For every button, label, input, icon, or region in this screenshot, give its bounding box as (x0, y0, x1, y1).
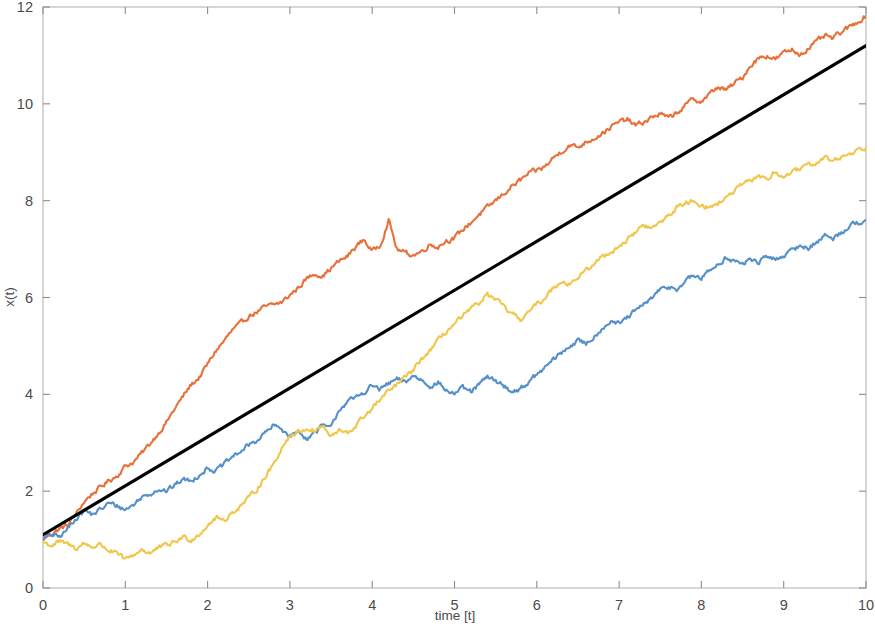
x-tick-label: 3 (286, 597, 294, 613)
figure-container: 012345678910 024681012 time [t] x(t) (0, 0, 875, 626)
y-tick-label: 0 (25, 580, 33, 596)
plot-background (0, 0, 875, 626)
y-tick-label: 6 (25, 290, 33, 306)
x-tick-label: 0 (39, 597, 47, 613)
y-tick-label: 2 (25, 483, 33, 499)
x-tick-label: 8 (697, 597, 705, 613)
y-tick-label: 8 (25, 193, 33, 209)
chart-canvas: 012345678910 024681012 time [t] x(t) (0, 0, 875, 626)
x-tick-label: 7 (615, 597, 623, 613)
x-axis-title: time [t] (435, 608, 476, 623)
x-tick-label: 10 (858, 597, 874, 613)
x-tick-label: 6 (533, 597, 541, 613)
y-tick-label: 4 (25, 386, 33, 402)
y-tick-label: 12 (17, 0, 33, 15)
x-tick-label: 4 (368, 597, 376, 613)
x-tick-label: 1 (121, 597, 129, 613)
y-axis-title: x(t) (2, 287, 17, 307)
x-tick-label: 9 (780, 597, 788, 613)
x-tick-label: 2 (204, 597, 212, 613)
y-tick-label: 10 (17, 96, 33, 112)
